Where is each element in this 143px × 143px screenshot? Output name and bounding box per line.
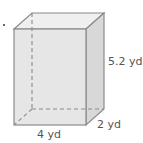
prism-front-face (14, 29, 86, 125)
height-label: 5.2 yd (108, 56, 142, 67)
depth-label: 2 yd (97, 119, 121, 130)
width-label: 4 yd (37, 129, 61, 140)
prism-side-face (86, 13, 104, 125)
rectangular-prism-diagram (0, 0, 143, 143)
